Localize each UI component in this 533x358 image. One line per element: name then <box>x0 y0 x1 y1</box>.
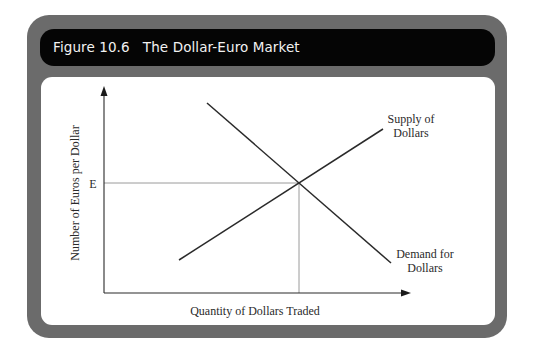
x-axis-arrow-icon <box>401 290 411 297</box>
supply-label-line1: Supply of <box>387 112 434 126</box>
demand-label-line1: Demand for <box>396 247 454 261</box>
y-axis-arrow-icon <box>101 86 108 96</box>
supply-demand-chart: E Supply of Dollars Demand for Dollars Q… <box>0 0 533 358</box>
x-axis-label: Quantity of Dollars Traded <box>190 304 320 318</box>
demand-label-line2: Dollars <box>407 261 443 275</box>
equilibrium-label: E <box>89 177 96 191</box>
supply-label-line2: Dollars <box>393 126 429 140</box>
y-axis-label: Number of Euros per Dollar <box>68 125 82 260</box>
supply-curve <box>179 129 383 260</box>
